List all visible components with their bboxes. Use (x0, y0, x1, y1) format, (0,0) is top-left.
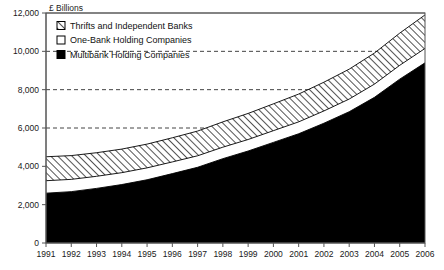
y-tick-label-4000: 4,000 (18, 161, 40, 171)
y-axis-title: £ Billions (49, 3, 83, 13)
legend-label-1: One-Bank Holding Companies (70, 35, 192, 45)
y-tick-label-2000: 2,000 (18, 200, 40, 210)
legend-swatch-diagonal-hatch (57, 22, 65, 30)
y-tick-label-12000: 12,000 (13, 8, 39, 18)
x-tick-label-2000: 2000 (264, 249, 283, 259)
y-tick-label-6000: 6,000 (18, 123, 40, 133)
x-tick-label-1999: 1999 (239, 249, 258, 259)
x-tick-label-2006: 2006 (416, 249, 435, 259)
x-tick-label-1993: 1993 (87, 249, 106, 259)
legend-item-1: One-Bank Holding Companies (57, 35, 192, 45)
legend-swatch-solid-black (57, 51, 65, 59)
chart-legend: Thrifts and Independent BanksOne-Bank Ho… (57, 21, 193, 60)
legend-label-2: Multibank Holding Companies (70, 50, 190, 60)
x-tick-label-1997: 1997 (188, 249, 207, 259)
x-axis: 1991199219931994199519961997199819992000… (37, 243, 435, 259)
x-tick-label-1992: 1992 (62, 249, 81, 259)
x-tick-label-1995: 1995 (138, 249, 157, 259)
x-tick-label-1996: 1996 (163, 249, 182, 259)
x-tick-label-2005: 2005 (390, 249, 409, 259)
chart-container: 02,0004,0006,0008,00010,00012,000 199119… (0, 0, 444, 270)
y-tick-label-10000: 10,000 (13, 46, 39, 56)
legend-item-2: Multibank Holding Companies (57, 50, 190, 60)
y-tick-label-0: 0 (34, 238, 39, 248)
x-tick-label-1998: 1998 (213, 249, 232, 259)
x-tick-label-2001: 2001 (289, 249, 308, 259)
y-tick-label-8000: 8,000 (18, 85, 40, 95)
x-tick-label-2002: 2002 (314, 249, 333, 259)
x-tick-label-1991: 1991 (37, 249, 56, 259)
x-tick-label-2003: 2003 (340, 249, 359, 259)
legend-item-0: Thrifts and Independent Banks (57, 21, 193, 31)
legend-swatch-white-outline (57, 36, 65, 44)
x-tick-label-1994: 1994 (112, 249, 131, 259)
y-axis: 02,0004,0006,0008,00010,00012,000 (13, 8, 46, 248)
x-tick-label-2004: 2004 (365, 249, 384, 259)
legend-label-0: Thrifts and Independent Banks (70, 21, 193, 31)
stacked-area-chart: 02,0004,0006,0008,00010,00012,000 199119… (0, 0, 444, 270)
